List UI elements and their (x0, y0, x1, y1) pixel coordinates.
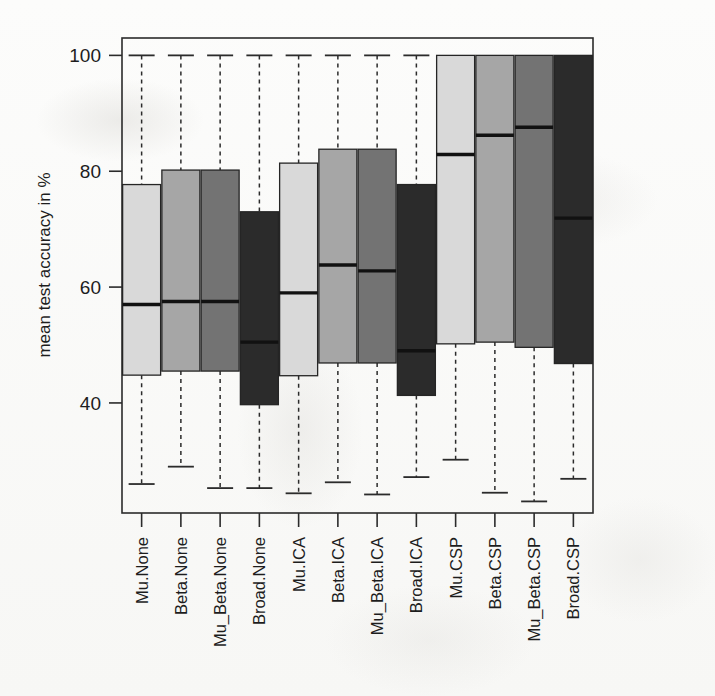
box-body (476, 55, 514, 342)
box-broad-none (240, 55, 278, 488)
boxplot-canvas: mean test accuracy in % 406080100 Mu.Non… (0, 0, 715, 696)
box-body (201, 170, 239, 371)
boxplot-figure: mean test accuracy in % 406080100 Mu.Non… (0, 0, 715, 696)
x-tick-label-broad-none: Broad.None (250, 537, 268, 625)
x-tick-label-beta-ica: Beta.ICA (329, 537, 347, 603)
y-axis: 406080100 (69, 45, 122, 414)
x-tick-label-mu-beta-csp: Mu_Beta.CSP (525, 537, 544, 642)
box-body (240, 212, 278, 405)
box-beta-csp (476, 55, 514, 492)
x-axis (142, 513, 574, 527)
box-mu-beta-ica (358, 55, 396, 494)
x-tick-label-mu-ica: Mu.ICA (290, 537, 308, 592)
box-body (554, 55, 592, 363)
x-tick-label-broad-csp: Broad.CSP (564, 537, 582, 620)
box-body (358, 149, 396, 363)
box-series (123, 55, 593, 501)
box-mu-beta-none (201, 55, 239, 488)
x-tick-labels: Mu.NoneBeta.NoneMu_Beta.NoneBroad.NoneMu… (133, 537, 583, 647)
box-body (162, 170, 200, 371)
x-tick-label-mu-csp: Mu.CSP (447, 537, 465, 598)
box-body (397, 185, 435, 396)
box-body (437, 55, 475, 343)
box-mu-csp (437, 55, 475, 459)
x-tick-label-beta-csp: Beta.CSP (486, 537, 504, 609)
x-tick-label-mu-none: Mu.None (133, 537, 151, 604)
y-axis-title: mean test accuracy in % (35, 172, 54, 357)
box-body (123, 185, 161, 376)
box-body (280, 163, 318, 376)
y-tick-label-80: 80 (80, 161, 101, 182)
y-tick-label-60: 60 (80, 277, 101, 298)
y-tick-label-100: 100 (69, 45, 101, 66)
box-beta-ica (319, 55, 357, 482)
box-broad-ica (397, 55, 435, 477)
y-tick-label-40: 40 (80, 393, 101, 414)
box-beta-none (162, 55, 200, 466)
x-tick-label-broad-ica: Broad.ICA (407, 537, 425, 613)
y-axis-title-text: mean test accuracy in % (35, 172, 54, 357)
box-body (515, 55, 553, 347)
box-mu-beta-csp (515, 55, 553, 501)
x-tick-label-mu-beta-none: Mu_Beta.None (211, 537, 230, 647)
box-mu-none (123, 55, 161, 484)
x-tick-label-mu-beta-ica: Mu_Beta.ICA (368, 537, 387, 635)
x-tick-label-beta-none: Beta.None (172, 537, 190, 615)
box-broad-csp (554, 55, 592, 478)
box-body (319, 149, 357, 363)
box-mu-ica (280, 55, 318, 493)
